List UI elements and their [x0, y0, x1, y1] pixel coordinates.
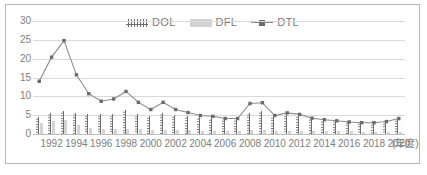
dtl-marker	[286, 111, 289, 114]
x-tick-2016: 2016	[338, 139, 360, 149]
dtl-marker	[224, 117, 227, 120]
x-tick-2000: 2000	[140, 139, 162, 149]
x-tick-2012: 2012	[288, 139, 310, 149]
dtl-marker	[137, 101, 140, 104]
dtl-marker	[62, 39, 65, 42]
dtl-marker	[50, 55, 53, 58]
dtl-marker	[360, 121, 363, 124]
dtl-marker	[87, 92, 90, 95]
dtl-marker	[261, 101, 264, 104]
dtl-marker	[75, 73, 78, 76]
dtl-marker	[124, 90, 127, 93]
dtl-marker	[199, 114, 202, 117]
dtl-marker	[372, 121, 375, 124]
x-tick-2014: 2014	[313, 139, 335, 149]
dtl-marker	[162, 101, 165, 104]
dtl-marker	[186, 111, 189, 114]
y-tick-0: 0	[11, 129, 31, 139]
x-axis-tick-labels: 1992199419961998200020022004200620082010…	[33, 136, 405, 156]
dtl-marker	[248, 102, 251, 105]
dtl-marker	[112, 97, 115, 100]
dtl-marker	[174, 108, 177, 111]
x-tick-2004: 2004	[189, 139, 211, 149]
dtl-marker	[100, 100, 103, 103]
x-tick-1998: 1998	[115, 139, 137, 149]
x-tick-1992: 1992	[40, 139, 62, 149]
dtl-marker	[385, 120, 388, 123]
dtl-marker	[211, 115, 214, 118]
dtl-marker	[397, 117, 400, 120]
dtl-marker	[38, 80, 41, 83]
dtl-marker	[310, 116, 313, 119]
plot-area	[33, 21, 405, 134]
dtl-marker	[323, 118, 326, 121]
x-tick-1994: 1994	[65, 139, 87, 149]
dtl-marker	[348, 120, 351, 123]
x-axis-unit-label: (年度)	[392, 139, 419, 149]
y-axis-tick-labels: 051015202530	[11, 21, 31, 134]
dtl-marker	[236, 117, 239, 120]
x-tick-1996: 1996	[90, 139, 112, 149]
x-tick-2018: 2018	[363, 139, 385, 149]
y-tick-30: 30	[11, 16, 31, 26]
dtl-marker	[149, 108, 152, 111]
dtl-marker	[335, 119, 338, 122]
y-tick-15: 15	[11, 73, 31, 83]
gridline-0	[33, 134, 405, 135]
y-tick-5: 5	[11, 110, 31, 120]
dtl-polyline	[39, 41, 399, 123]
x-tick-2008: 2008	[239, 139, 261, 149]
y-tick-20: 20	[11, 54, 31, 64]
dtl-marker	[298, 113, 301, 116]
dtl-line-series	[33, 21, 405, 134]
dtl-marker	[273, 114, 276, 117]
chart-frame: DOL DFL DTL 051015202530 199219941996199…	[5, 4, 420, 164]
x-tick-2006: 2006	[214, 139, 236, 149]
y-tick-10: 10	[11, 91, 31, 101]
y-tick-25: 25	[11, 35, 31, 45]
x-tick-2002: 2002	[164, 139, 186, 149]
x-tick-2010: 2010	[264, 139, 286, 149]
